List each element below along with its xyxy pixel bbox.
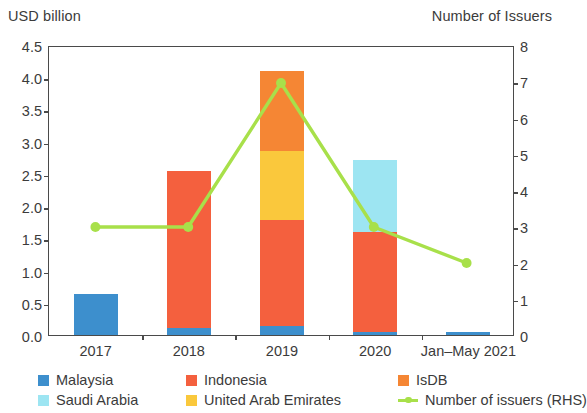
legend-label: IsDB: [416, 373, 447, 388]
left-tick-mark: [44, 273, 49, 275]
legend-item[interactable]: United Arab Emirates: [186, 393, 398, 408]
category-label: Jan–May 2021: [421, 343, 516, 359]
left-tick-mark: [44, 305, 49, 307]
left-tick-label: 2.0: [22, 201, 42, 216]
category-label: 2017: [79, 343, 111, 359]
bar-segment[interactable]: [446, 332, 490, 335]
right-tick-mark: [513, 265, 518, 267]
legend-item[interactable]: Saudi Arabia: [38, 393, 186, 408]
plot-area: 0.00.51.01.52.02.53.03.54.04.5 012345678…: [48, 46, 514, 336]
bar-stack[interactable]: [353, 45, 397, 335]
left-tick-label: 3.0: [22, 136, 42, 151]
bar-stack[interactable]: [167, 45, 211, 335]
left-tick-label: 4.0: [22, 72, 42, 87]
legend-line-icon: [398, 395, 418, 406]
chart-legend: MalaysiaIndonesiaIsDBSaudi ArabiaUnited …: [38, 370, 554, 410]
category-tick-mark: [422, 335, 424, 340]
left-tick-label: 1.5: [22, 233, 42, 248]
right-tick-label: 7: [520, 76, 528, 91]
left-tick-mark: [44, 79, 49, 81]
legend-swatch-icon: [398, 375, 409, 386]
legend-swatch-icon: [186, 395, 197, 406]
left-tick-label: 0.0: [22, 330, 42, 345]
legend-swatch-icon: [38, 375, 49, 386]
legend-item[interactable]: Indonesia: [186, 373, 398, 388]
left-tick-label: 0.5: [22, 298, 42, 313]
legend-label: Indonesia: [204, 373, 267, 388]
right-tick-mark: [513, 192, 518, 194]
category-tick-mark: [142, 335, 144, 340]
left-tick-mark: [44, 240, 49, 242]
right-tick-mark: [513, 228, 518, 230]
bar-segment[interactable]: [353, 160, 397, 232]
legend-label: Saudi Arabia: [56, 393, 138, 408]
left-tick-mark: [44, 144, 49, 146]
left-tick-mark: [44, 111, 49, 113]
category-tick-mark: [329, 335, 331, 340]
right-axis-title: Number of Issuers: [432, 8, 552, 24]
legend-label: Malaysia: [56, 373, 113, 388]
bar-segment[interactable]: [167, 328, 211, 335]
right-tick-label: 8: [520, 40, 528, 55]
legend-item[interactable]: Number of issuers (RHS): [398, 393, 587, 408]
category-label: 2018: [173, 343, 205, 359]
right-tick-label: 2: [520, 257, 528, 272]
left-tick-label: 4.5: [22, 40, 42, 55]
right-tick-label: 1: [520, 294, 528, 309]
bar-segment[interactable]: [260, 151, 304, 219]
left-tick-label: 2.5: [22, 169, 42, 184]
bar-segment[interactable]: [260, 220, 304, 326]
right-tick-mark: [513, 156, 518, 158]
left-axis-title: USD billion: [8, 8, 81, 24]
bar-stack[interactable]: [74, 45, 118, 335]
left-tick-mark: [44, 208, 49, 210]
left-tick-label: 1.0: [22, 265, 42, 280]
category-label: 2020: [359, 343, 391, 359]
legend-label: United Arab Emirates: [204, 393, 341, 408]
category-tick-mark: [235, 335, 237, 340]
legend-item[interactable]: IsDB: [398, 373, 587, 388]
legend-item[interactable]: Malaysia: [38, 373, 186, 388]
right-tick-label: 4: [520, 185, 528, 200]
left-tick-mark: [44, 176, 49, 178]
right-tick-label: 3: [520, 221, 528, 236]
bar-segment[interactable]: [260, 71, 304, 152]
right-tick-mark: [513, 301, 518, 303]
bar-segment[interactable]: [260, 326, 304, 335]
right-tick-label: 0: [520, 330, 528, 345]
right-tick-label: 6: [520, 112, 528, 127]
legend-label: Number of issuers (RHS): [425, 393, 587, 408]
bar-segment[interactable]: [167, 171, 211, 328]
bar-segment[interactable]: [74, 294, 118, 335]
left-tick-label: 3.5: [22, 104, 42, 119]
legend-swatch-icon: [186, 375, 197, 386]
right-tick-mark: [513, 120, 518, 122]
right-tick-mark: [513, 83, 518, 85]
bar-segment[interactable]: [353, 232, 397, 332]
bar-stack[interactable]: [260, 45, 304, 335]
right-tick-label: 5: [520, 149, 528, 164]
bar-stack[interactable]: [446, 45, 490, 335]
category-label: 2019: [266, 343, 298, 359]
legend-swatch-icon: [38, 395, 49, 406]
bar-segment[interactable]: [353, 332, 397, 335]
